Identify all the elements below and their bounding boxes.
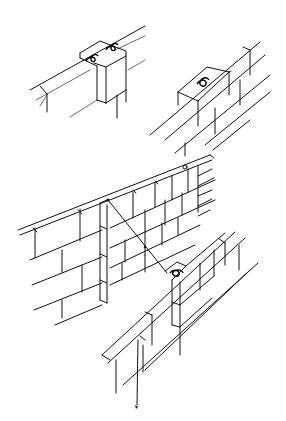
line-pin-icon — [183, 165, 187, 169]
mason-line — [107, 199, 168, 274]
top-right-wall — [150, 42, 270, 156]
tie-icon — [86, 55, 98, 62]
tie-icon — [197, 78, 209, 86]
drawing-canvas — [0, 0, 286, 421]
top-left-corner-block — [30, 26, 145, 118]
block-wall-illustration — [0, 0, 286, 421]
long-wall — [18, 155, 215, 325]
plumb-bob-icon — [135, 405, 138, 409]
